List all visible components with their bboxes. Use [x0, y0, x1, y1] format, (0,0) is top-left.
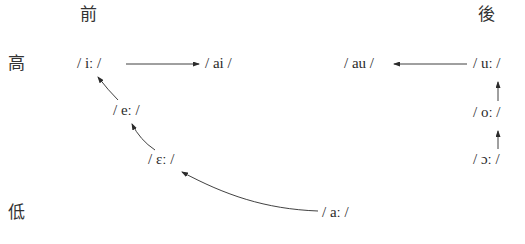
arrow-e-to-i — [98, 77, 118, 100]
arrow-a-to-epsilon — [182, 172, 318, 211]
arrow-epsilon-to-e — [132, 124, 155, 150]
vowel-shift-arrows — [0, 0, 525, 244]
